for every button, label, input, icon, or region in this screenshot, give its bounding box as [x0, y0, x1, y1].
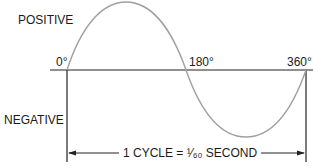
cycle-duration-label: 1 CYCLE = ¹⁄₆₀ SECOND: [119, 147, 261, 159]
degree-360-label: 360°: [287, 56, 312, 68]
negative-label: NEGATIVE: [4, 114, 64, 126]
left-arrowhead-icon: [68, 151, 76, 156]
positive-label: POSITIVE: [18, 14, 73, 26]
degree-0-label: 0°: [56, 56, 67, 68]
degree-180-label: 180°: [189, 56, 214, 68]
right-arrowhead-icon: [297, 151, 305, 156]
